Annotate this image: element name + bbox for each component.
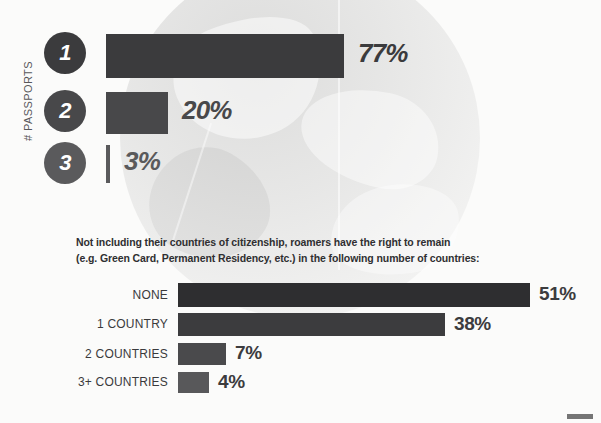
residency-bar: [178, 372, 209, 393]
chart-caption: Not including their countries of citizen…: [76, 234, 556, 266]
residency-row-label: 2 COUNTRIES: [0, 343, 168, 365]
passport-count-badge: 1: [44, 32, 86, 74]
passport-bar-value: 20%: [182, 95, 232, 126]
caption-line-2: (e.g. Green Card, Permanent Residency, e…: [76, 250, 556, 266]
residency-bar-value: 38%: [454, 313, 491, 335]
residency-bar: [178, 283, 530, 307]
residency-row: NONE51%: [0, 283, 601, 310]
passport-bar: [106, 92, 168, 134]
residency-row-label: NONE: [0, 283, 168, 307]
corner-mark: [567, 414, 593, 419]
residency-bar-value: 4%: [218, 371, 245, 393]
passport-count-badge: 2: [44, 90, 86, 132]
residency-countries-chart: NONE51%1 COUNTRY38%2 COUNTRIES7%3+ COUNT…: [0, 283, 601, 403]
passport-bar-value: 3%: [124, 146, 160, 177]
residency-bar-value: 51%: [539, 283, 576, 305]
residency-row-label: 3+ COUNTRIES: [0, 372, 168, 393]
infographic-page: # PASSPORTS 177%220%33% Not including th…: [0, 0, 601, 423]
passport-bar: [106, 145, 110, 183]
caption-line-1: Not including their countries of citizen…: [76, 234, 556, 250]
passport-bar: [106, 34, 344, 78]
residency-bar: [178, 313, 445, 336]
residency-row: 1 COUNTRY38%: [0, 313, 601, 340]
passport-bar-value: 77%: [358, 38, 408, 69]
passport-count-badge: 3: [44, 142, 86, 184]
residency-row-label: 1 COUNTRY: [0, 313, 168, 336]
passports-chart: 177%220%33%: [0, 0, 601, 215]
residency-bar: [178, 343, 226, 365]
residency-row: 3+ COUNTRIES4%: [0, 372, 601, 399]
residency-row: 2 COUNTRIES7%: [0, 343, 601, 370]
residency-bar-value: 7%: [235, 342, 262, 364]
